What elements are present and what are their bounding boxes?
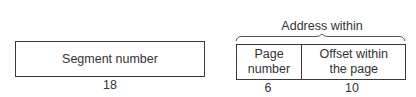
page-number-field: Page number <box>237 45 302 79</box>
offset-within-page-field: Offset within the page <box>303 45 406 79</box>
page-number-label-line2: number <box>248 62 290 77</box>
offset-label-line2: the page <box>319 62 388 77</box>
page-number-bits: 6 <box>265 81 272 95</box>
offset-label-line1: Offset within <box>319 47 388 62</box>
offset-bits: 10 <box>345 81 359 95</box>
address-within-segment-field: Page number Offset within the page <box>236 44 406 80</box>
page-number-label-line1: Page <box>248 47 290 62</box>
